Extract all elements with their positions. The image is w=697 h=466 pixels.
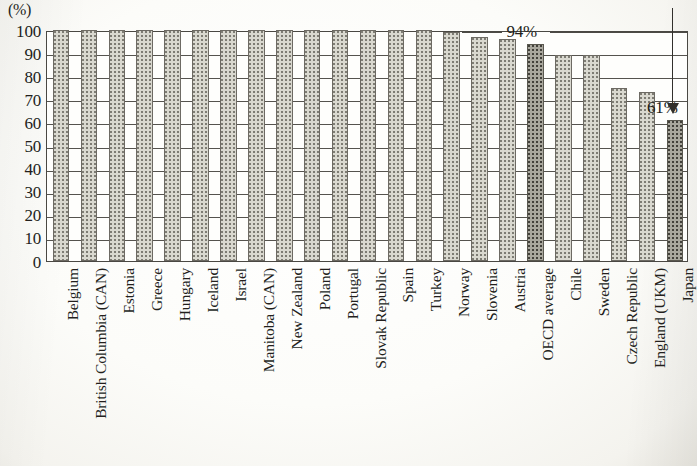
bar-chart: (%) 1009080706050403020100 BelgiumBritis… xyxy=(0,0,697,466)
x-axis-label-british-columbia-can: British Columbia (CAN) xyxy=(93,268,109,419)
x-axis-label-japan: Japan xyxy=(680,268,696,303)
bar-slovenia xyxy=(471,37,488,261)
y-axis-tick-100: 100 xyxy=(0,23,41,40)
bar-british-columbia-can xyxy=(81,30,98,261)
x-axis-label-iceland: Iceland xyxy=(205,268,221,313)
x-axis-label-spain: Spain xyxy=(400,268,416,303)
bar-japan xyxy=(667,120,684,261)
y-axis-tick-80: 80 xyxy=(0,69,41,86)
down-arrow-head-icon xyxy=(667,103,679,114)
oecd-average-value-label: 94% xyxy=(506,23,537,40)
x-axis-label-norway: Norway xyxy=(456,268,472,317)
bar-poland xyxy=(304,30,321,261)
y-axis-tick-10: 10 xyxy=(0,230,41,247)
x-axis-label-slovenia: Slovenia xyxy=(484,268,500,321)
x-axis-label-england-ukm: England (UKM) xyxy=(652,268,668,368)
y-axis-tick-70: 70 xyxy=(0,92,41,109)
bar-israel xyxy=(220,30,237,261)
bar-belgium xyxy=(53,30,70,261)
x-axis-label-belgium: Belgium xyxy=(65,268,81,320)
x-axis-label-czech-republic: Czech Republic xyxy=(624,268,640,364)
oecd-average-leader-line-left xyxy=(462,32,502,33)
bar-iceland xyxy=(192,30,209,261)
bar-norway xyxy=(443,32,460,261)
y-axis-unit-label: (%) xyxy=(8,2,31,18)
x-axis-label-turkey: Turkey xyxy=(428,268,444,311)
x-axis-label-estonia: Estonia xyxy=(121,268,137,313)
bar-chile xyxy=(555,55,572,261)
bar-sweden xyxy=(583,55,600,261)
bar-oecd-average xyxy=(527,44,544,261)
x-axis-label-israel: Israel xyxy=(233,268,249,302)
x-axis-label-portugal: Portugal xyxy=(345,268,361,319)
x-axis-label-chile: Chile xyxy=(568,268,584,301)
bar-portugal xyxy=(332,30,349,261)
x-axis-label-manitoba-can: Manitoba (CAN) xyxy=(261,268,277,372)
bar-austria xyxy=(499,39,516,261)
bar-turkey xyxy=(416,30,433,261)
x-axis-label-slovak-republic: Slovak Republic xyxy=(373,268,389,369)
oecd-average-leader-line-right xyxy=(550,32,688,33)
y-axis-tick-60: 60 xyxy=(0,115,41,132)
bar-hungary xyxy=(164,30,181,261)
y-axis-tick-0: 0 xyxy=(0,254,41,271)
x-axis-label-hungary: Hungary xyxy=(177,268,193,321)
bar-czech-republic xyxy=(611,88,628,261)
x-axis-label-poland: Poland xyxy=(317,268,333,310)
bar-manitoba-can xyxy=(248,30,265,261)
bar-slovak-republic xyxy=(360,30,377,261)
x-axis-label-greece: Greece xyxy=(149,268,165,311)
bar-new-zealand xyxy=(276,30,293,261)
y-axis-tick-30: 30 xyxy=(0,184,41,201)
y-axis-tick-20: 20 xyxy=(0,207,41,224)
x-axis-label-new-zealand: New Zealand xyxy=(289,268,305,349)
x-axis-label-austria: Austria xyxy=(512,268,528,313)
y-axis-tick-90: 90 xyxy=(0,46,41,63)
x-axis-label-oecd-average: OECD average xyxy=(540,268,556,360)
bar-england-ukm xyxy=(639,92,656,261)
bar-estonia xyxy=(109,30,126,261)
x-axis-label-sweden: Sweden xyxy=(596,268,612,316)
plot-area xyxy=(46,31,688,262)
bar-greece xyxy=(136,30,153,261)
bar-spain xyxy=(388,30,405,261)
y-axis-tick-50: 50 xyxy=(0,138,41,155)
down-arrow-icon xyxy=(672,8,673,112)
y-axis-tick-40: 40 xyxy=(0,161,41,178)
